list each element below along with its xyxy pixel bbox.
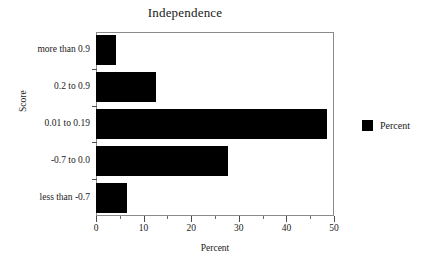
x-tick-major: [96, 216, 97, 222]
y-tick-mark: [92, 106, 97, 107]
x-tick-label: 0: [76, 223, 116, 233]
bars-layer: [96, 32, 334, 216]
y-tick-label: -0.7 to 0.0: [2, 155, 90, 165]
x-tick-major: [334, 216, 335, 222]
x-tick-minor: [167, 216, 168, 219]
x-tick-minor: [120, 216, 121, 219]
x-tick-minor: [310, 216, 311, 219]
chart-title: Independence: [0, 5, 370, 21]
y-tick-label: 0.2 to 0.9: [2, 81, 90, 91]
bar-row: [96, 72, 334, 102]
y-tick-mark: [92, 142, 97, 143]
x-axis-title: Percent: [96, 243, 334, 253]
x-tick-minor: [215, 216, 216, 219]
bar-0-01-to-0-19: [96, 109, 327, 139]
chart-legend: Percent: [362, 120, 410, 131]
x-tick-major: [239, 216, 240, 222]
x-tick-major: [286, 216, 287, 222]
x-tick-major: [144, 216, 145, 222]
bar-chart: Independence more than 0.90.2 to 0.90.01…: [0, 0, 438, 269]
y-axis-title: Score: [18, 90, 28, 112]
bar--0-7-to-0-0: [96, 146, 228, 176]
x-tick-label: 40: [266, 223, 306, 233]
legend-swatch-percent: [362, 120, 373, 131]
y-tick-mark: [92, 69, 97, 70]
y-tick-label: less than -0.7: [2, 192, 90, 202]
bar-less-than-0-7: [96, 183, 127, 213]
bar-more-than-0-9: [96, 35, 116, 65]
x-axis-tick-labels: 01020304050: [96, 223, 334, 237]
x-tick-label: 10: [124, 223, 164, 233]
bar-row: [96, 109, 334, 139]
bar-row: [96, 146, 334, 176]
x-tick-major: [191, 216, 192, 222]
legend-label-percent: Percent: [380, 120, 410, 131]
bar-row: [96, 183, 334, 213]
y-tick-label: 0.01 to 0.19: [2, 118, 90, 128]
y-tick-mark: [92, 179, 97, 180]
y-axis-tick-labels: more than 0.90.2 to 0.90.01 to 0.19-0.7 …: [0, 32, 90, 216]
x-tick-label: 50: [314, 223, 354, 233]
y-tick-label: more than 0.9: [2, 44, 90, 54]
x-tick-label: 30: [219, 223, 259, 233]
bar-row: [96, 35, 334, 65]
x-tick-label: 20: [171, 223, 211, 233]
bar-0-2-to-0-9: [96, 72, 156, 102]
x-tick-minor: [263, 216, 264, 219]
